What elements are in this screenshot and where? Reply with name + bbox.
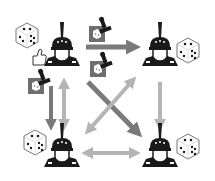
seal-stamp-icon [28,67,51,94]
soldier-top-left-icon [44,22,80,66]
seal-stamp-icon [90,50,113,77]
soldier-bottom-right-icon [142,123,178,167]
soldier-top-right-icon [142,22,178,66]
thumbs-up-icon [33,49,46,65]
diagram-canvas [0,0,215,181]
die-top-left-icon [16,23,38,48]
soldier-bottom-left-icon [44,123,80,167]
die-top-right-icon [177,38,199,63]
die-bottom-left-icon [24,130,46,155]
seal-stamp-icon [89,15,112,42]
die-bottom-right-icon [177,134,199,159]
